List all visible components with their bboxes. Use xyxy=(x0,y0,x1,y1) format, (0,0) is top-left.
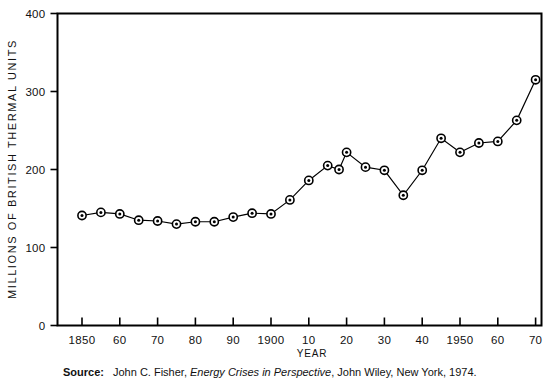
line-chart-svg: 0100200300400 18506070809019001020304019… xyxy=(0,0,556,389)
data-point-marker xyxy=(305,176,313,184)
y-axis-ticks xyxy=(51,14,58,326)
y-tick-label: 300 xyxy=(25,86,45,98)
x-axis-title: YEAR xyxy=(297,348,327,359)
chart-figure: 0100200300400 18506070809019001020304019… xyxy=(0,0,556,389)
data-point-marker xyxy=(191,218,199,226)
y-tick-label: 100 xyxy=(25,242,45,254)
y-tick-label: 200 xyxy=(25,164,45,176)
data-point-marker xyxy=(286,196,294,204)
data-point-marker xyxy=(116,210,124,218)
data-point-marker xyxy=(456,148,464,156)
source-publisher: , John Wiley, New York, 1974. xyxy=(331,366,476,378)
x-axis-tick-labels: 18506070809019001020304019506070 xyxy=(69,334,543,346)
y-tick-label: 0 xyxy=(39,320,46,332)
data-point-marker xyxy=(154,217,162,225)
data-point-marker xyxy=(78,211,86,219)
x-tick-label: 1950 xyxy=(447,334,474,346)
x-tick-label: 90 xyxy=(226,334,239,346)
data-point-marker xyxy=(335,165,343,173)
x-tick-label: 80 xyxy=(189,334,202,346)
y-axis-tick-labels: 0100200300400 xyxy=(25,8,45,332)
source-caption: Source:John C. Fisher, Energy Crises in … xyxy=(63,366,477,378)
x-tick-label: 70 xyxy=(151,334,164,346)
data-point-marker xyxy=(437,134,445,142)
data-point-marker xyxy=(494,137,502,145)
data-point-marker xyxy=(210,218,218,226)
data-point-marker xyxy=(267,210,275,218)
x-tick-label: 70 xyxy=(529,334,542,346)
data-point-marker xyxy=(343,148,351,156)
data-point-marker xyxy=(380,166,388,174)
data-point-marker xyxy=(361,163,369,171)
x-tick-label: 60 xyxy=(491,334,504,346)
data-point-marker xyxy=(513,116,521,124)
x-tick-label: 1900 xyxy=(258,334,285,346)
y-tick-label: 400 xyxy=(25,8,45,20)
y-axis-title: MILLIONS OF BRITISH THERMAL UNITS xyxy=(6,39,18,299)
source-author: John C. Fisher, xyxy=(113,366,187,378)
data-point-marker xyxy=(97,208,105,216)
data-point-marker xyxy=(399,191,407,199)
x-tick-label: 20 xyxy=(340,334,353,346)
x-tick-label: 40 xyxy=(415,334,428,346)
x-tick-label: 1850 xyxy=(69,334,96,346)
x-tick-label: 60 xyxy=(113,334,126,346)
data-point-marker xyxy=(324,162,332,170)
data-point-marker xyxy=(532,76,540,84)
x-tick-label: 30 xyxy=(378,334,391,346)
plot-frame xyxy=(58,14,542,326)
data-point-marker xyxy=(248,209,256,217)
source-label: Source: xyxy=(63,366,104,378)
source-title: Energy Crises in Perspective xyxy=(190,366,331,378)
data-point-marker xyxy=(229,213,237,221)
data-point-marker xyxy=(172,220,180,228)
data-point-marker xyxy=(418,166,426,174)
x-tick-label: 10 xyxy=(302,334,315,346)
data-point-marker xyxy=(475,139,483,147)
plot-border xyxy=(58,14,542,326)
data-point-marker xyxy=(135,216,143,224)
